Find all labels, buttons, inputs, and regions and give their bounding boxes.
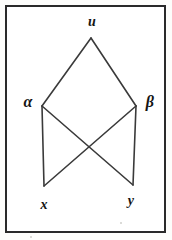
edge-u-alpha (42, 38, 91, 106)
edge-u-beta (91, 38, 136, 106)
figure-container: u α β x y (0, 0, 172, 240)
edge-alpha-x (42, 106, 44, 186)
node-label-alpha: α (23, 94, 32, 110)
graph-edges-canvas (0, 0, 172, 240)
node-label-x: x (40, 198, 47, 212)
scan-speck (120, 222, 122, 224)
edge-beta-y (133, 106, 136, 185)
edge-alpha-y (42, 106, 133, 185)
edge-beta-x (44, 106, 136, 186)
node-label-u: u (88, 15, 96, 29)
node-label-y: y (128, 194, 134, 208)
scan-speck (30, 236, 32, 238)
node-label-beta: β (146, 94, 154, 110)
edges-group (42, 38, 136, 186)
